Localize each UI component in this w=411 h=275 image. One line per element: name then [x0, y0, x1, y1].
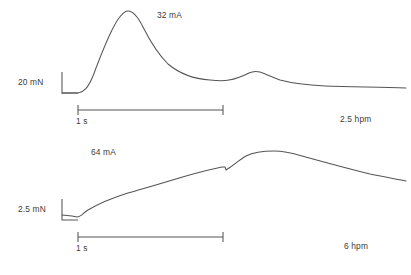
lower-force-scale-label: 2.5 mN [18, 204, 46, 214]
upper-force-trace [62, 11, 406, 93]
upper-force-scale-bar [62, 72, 78, 93]
lower-time-scale-bar [78, 232, 223, 242]
lower-time-scale-label: 1 s [76, 243, 88, 253]
lower-force-trace [62, 151, 406, 217]
figure-canvas: 20 mN 32 mA 1 s 2.5 hpm 2.5 mN 64 mA 1 s… [0, 0, 411, 275]
upper-time-scale-label: 1 s [76, 116, 88, 126]
lower-rate-label: 6 hpm [344, 241, 368, 251]
upper-stimulus-label: 32 mA [157, 10, 182, 20]
upper-force-scale-label: 20 mN [18, 77, 43, 87]
upper-time-scale-bar [78, 105, 223, 115]
upper-rate-label: 2.5 hpm [340, 114, 371, 124]
traces-svg [0, 0, 411, 275]
lower-stimulus-label: 64 mA [91, 147, 116, 157]
